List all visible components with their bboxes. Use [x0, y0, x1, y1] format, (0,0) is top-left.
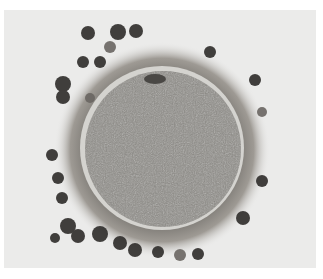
oocyte-micrograph: [0, 0, 323, 279]
ooplasm-texture: [85, 71, 241, 227]
polar-body: [144, 74, 166, 84]
